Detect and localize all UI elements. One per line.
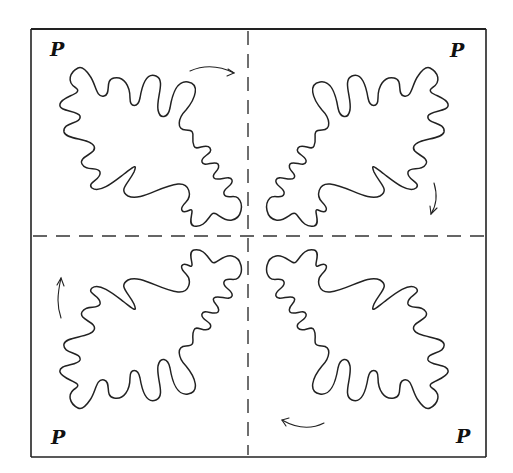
outer-frame <box>31 29 486 457</box>
outline-top-left <box>60 67 242 226</box>
arrow-bottom-right-left <box>282 418 324 427</box>
outline-bottom-right <box>267 250 449 409</box>
arrow-top-left-right <box>190 67 234 76</box>
label-bottom-left: P <box>51 428 65 447</box>
label-bottom-right: P <box>456 427 470 446</box>
arrow-bottom-left-up <box>57 278 64 318</box>
outline-bottom-left <box>60 250 242 409</box>
outline-top-right <box>267 67 449 226</box>
diagram-canvas <box>0 0 513 473</box>
label-top-right: P <box>450 41 464 60</box>
label-top-left: P <box>50 40 64 59</box>
arrow-top-right-down <box>430 183 437 214</box>
